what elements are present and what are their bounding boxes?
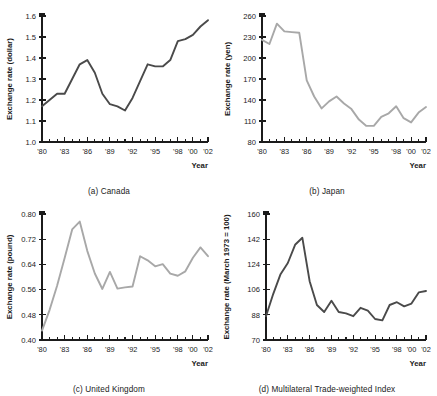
svg-text:'83: '83 (60, 345, 70, 354)
svg-text:80: 80 (248, 138, 256, 147)
svg-text:200: 200 (243, 54, 256, 63)
svg-text:'80: '80 (37, 345, 47, 354)
svg-text:1.5: 1.5 (25, 33, 36, 42)
multilateral-trade-weighted-index-y-axis-title: Exchange rate (March 1973 = 100) (222, 214, 231, 339)
japan-series-line (262, 24, 426, 126)
japan-y-axis-title: Exchange rate (yen) (223, 42, 232, 117)
svg-text:'95: '95 (369, 147, 379, 156)
svg-text:160: 160 (247, 210, 260, 219)
svg-text:124: 124 (247, 260, 260, 269)
canada-line-chart: 1.01.11.21.31.41.51.6'80'83'86'89'92'95'… (0, 0, 218, 198)
svg-text:88: 88 (252, 311, 260, 320)
caption-united-kingdom: (c) United Kingdom (0, 385, 218, 394)
svg-text:140: 140 (243, 96, 256, 105)
multilateral-trade-weighted-index-series-line (266, 238, 426, 321)
united-kingdom-line-chart: 0.400.480.560.640.720.80'80'83'86'89'92'… (0, 198, 218, 396)
svg-text:'80: '80 (37, 147, 47, 156)
figure-grid: 1.01.11.21.31.41.51.6'80'83'86'89'92'95'… (0, 0, 437, 396)
svg-text:'00: '00 (188, 345, 198, 354)
svg-text:'95: '95 (150, 345, 160, 354)
united-kingdom-series-line (42, 222, 208, 331)
svg-text:'86: '86 (302, 147, 312, 156)
svg-text:'95: '95 (370, 345, 380, 354)
japan-x-axis-title: Year (410, 161, 426, 170)
svg-text:'00: '00 (406, 147, 416, 156)
svg-text:1.6: 1.6 (25, 12, 36, 21)
svg-text:260: 260 (243, 12, 256, 21)
svg-text:'92: '92 (348, 345, 358, 354)
svg-text:230: 230 (243, 33, 256, 42)
united-kingdom-x-axis-title: Year (192, 359, 208, 368)
svg-text:'00: '00 (407, 345, 417, 354)
svg-text:'86: '86 (305, 345, 315, 354)
svg-text:0.64: 0.64 (21, 260, 36, 269)
svg-text:142: 142 (247, 235, 260, 244)
canada-series-line (42, 20, 208, 110)
svg-text:'00: '00 (188, 147, 198, 156)
svg-text:'86: '86 (82, 147, 92, 156)
svg-text:'83: '83 (280, 147, 290, 156)
svg-text:'89: '89 (105, 147, 115, 156)
svg-text:'98: '98 (391, 147, 401, 156)
svg-text:'83: '83 (60, 147, 70, 156)
svg-text:106: 106 (247, 285, 260, 294)
svg-text:'80: '80 (261, 345, 271, 354)
svg-text:70: 70 (252, 336, 260, 345)
svg-text:'02: '02 (203, 345, 213, 354)
svg-text:0.56: 0.56 (21, 285, 36, 294)
svg-text:1.2: 1.2 (25, 96, 36, 105)
svg-text:'92: '92 (347, 147, 357, 156)
svg-text:'92: '92 (128, 147, 138, 156)
svg-text:'89: '89 (324, 147, 334, 156)
multilateral-line-chart: 7088106124142160'80'83'86'89'92'95'98'00… (218, 198, 436, 396)
caption-canada: (a) Canada (0, 187, 218, 196)
svg-text:'98: '98 (173, 147, 183, 156)
canada-x-axis-title: Year (192, 161, 208, 170)
svg-text:1.0: 1.0 (25, 138, 36, 147)
svg-text:'86: '86 (82, 345, 92, 354)
svg-text:'83: '83 (283, 345, 293, 354)
multilateral-trade-weighted-index-x-axis-title: Year (410, 359, 426, 368)
svg-text:'98: '98 (392, 345, 402, 354)
svg-text:1.3: 1.3 (25, 75, 36, 84)
svg-text:0.48: 0.48 (21, 311, 36, 320)
svg-text:0.40: 0.40 (21, 336, 36, 345)
svg-text:'80: '80 (257, 147, 267, 156)
canada-y-axis-title: Exchange rate (dollar) (5, 38, 14, 120)
svg-text:'95: '95 (150, 147, 160, 156)
chart-panel-canada: 1.01.11.21.31.41.51.6'80'83'86'89'92'95'… (0, 0, 218, 198)
chart-panel-united-kingdom: 0.400.480.560.640.720.80'80'83'86'89'92'… (0, 198, 218, 396)
svg-text:'89: '89 (327, 345, 337, 354)
svg-text:0.72: 0.72 (21, 235, 36, 244)
svg-text:'89: '89 (105, 345, 115, 354)
svg-text:110: 110 (244, 117, 256, 126)
chart-panel-japan: 80110140170200230260'80'83'86'89'92'95'9… (218, 0, 436, 198)
svg-text:'02: '02 (421, 147, 431, 156)
caption-japan: (b) Japan (218, 187, 436, 196)
svg-text:'92: '92 (128, 345, 138, 354)
svg-text:'98: '98 (173, 345, 183, 354)
svg-text:'02: '02 (421, 345, 431, 354)
japan-line-chart: 80110140170200230260'80'83'86'89'92'95'9… (218, 0, 436, 198)
svg-text:1.4: 1.4 (25, 54, 36, 63)
chart-panel-multilateral: 7088106124142160'80'83'86'89'92'95'98'00… (218, 198, 436, 396)
svg-text:1.1: 1.1 (25, 117, 36, 126)
svg-text:170: 170 (243, 75, 256, 84)
svg-text:0.80: 0.80 (21, 210, 36, 219)
caption-multilateral: (d) Multilateral Trade-weighted Index (218, 385, 436, 394)
united-kingdom-y-axis-title: Exchange rate (pound) (5, 234, 14, 319)
svg-text:'02: '02 (203, 147, 213, 156)
